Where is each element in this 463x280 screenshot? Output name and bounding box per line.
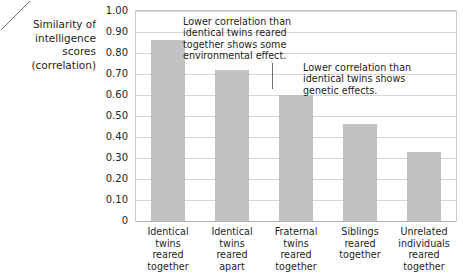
annotation-environmental-effect: Lower correlation than identical twins r… (183, 16, 305, 62)
x-tick-label: Unrelated individuals reared together (392, 226, 456, 272)
x-axis-tick-labels: Identical twins reared togetherIdentical… (135, 226, 457, 280)
annotation-leader-line-1 (272, 63, 273, 89)
bar-chart-figure: Similarity of intelligence scores (corre… (0, 0, 463, 280)
annotation-genetic-effects: Lower correlation than identical twins s… (303, 62, 423, 96)
y-tick-label: 1.00 (106, 6, 128, 16)
y-axis-title: Similarity of intelligence scores (corre… (0, 18, 96, 72)
y-tick-label: 0.40 (106, 132, 128, 142)
x-tick-label: Identical twins reared together (136, 226, 200, 272)
y-tick-label: 0.90 (106, 27, 128, 37)
y-tick-label: 0 (122, 216, 128, 226)
bar (215, 70, 249, 221)
y-tick-label: 0.10 (106, 195, 128, 205)
y-tick-label: 0.60 (106, 90, 128, 100)
y-tick-label: 0.50 (106, 111, 128, 121)
bar (279, 95, 313, 221)
y-tick-label: 0.70 (106, 69, 128, 79)
x-tick-label: Fraternal twins reared together (264, 226, 328, 272)
y-tick-label: 0.20 (106, 174, 128, 184)
x-tick-label: Identical twins reared apart (200, 226, 264, 272)
x-tick-label: Siblings reared together (328, 226, 392, 261)
gridline (136, 221, 456, 222)
bar (343, 124, 377, 221)
y-tick-label: 0.80 (106, 48, 128, 58)
y-axis-tick-labels: 1.000.900.800.700.600.500.400.300.200.10… (96, 0, 132, 280)
bar (407, 152, 441, 221)
bar (151, 40, 185, 221)
y-tick-label: 0.30 (106, 153, 128, 163)
